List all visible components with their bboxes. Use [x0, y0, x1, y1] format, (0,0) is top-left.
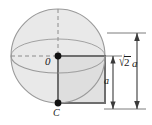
arrowhead-diagonal-bottom: [134, 101, 140, 109]
label-side-dimension: a: [104, 76, 109, 86]
label-origin: 0: [45, 56, 51, 67]
inscribed-square: [58, 56, 105, 103]
point-origin: [55, 53, 62, 60]
geometry-figure: 0 C √2a a: [0, 0, 152, 125]
label-diagonal-dimension: √2a: [119, 57, 138, 69]
diagonal-variable: a: [132, 57, 138, 69]
arrowhead-side-top: [110, 56, 115, 64]
label-center-c: C: [53, 108, 60, 118]
arrowhead-diagonal-top: [134, 33, 140, 41]
radical-expression: √2: [119, 57, 131, 69]
radicand-value: 2: [124, 56, 131, 68]
point-c: [55, 100, 62, 107]
arrowhead-side-bottom: [110, 102, 115, 110]
